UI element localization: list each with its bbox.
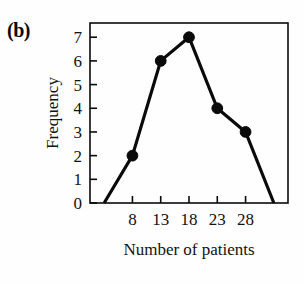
y-tick-label: 5 <box>74 76 83 95</box>
y-tick-label: 4 <box>74 99 83 118</box>
y-axis-tick-labels: 01234567 <box>74 28 83 213</box>
x-tick-label: 13 <box>152 210 169 229</box>
y-tick-label: 1 <box>74 170 83 189</box>
y-tick-label: 7 <box>74 28 83 47</box>
data-point-marker <box>184 32 195 43</box>
y-axis-ticks <box>90 37 97 203</box>
x-tick-label: 8 <box>128 210 137 229</box>
x-tick-label: 23 <box>209 210 226 229</box>
data-line-frequency <box>104 37 274 203</box>
x-tick-label: 18 <box>181 210 198 229</box>
x-axis-ticks <box>132 196 245 203</box>
y-axis-title: Frequency <box>43 77 62 149</box>
x-tick-label: 28 <box>237 210 254 229</box>
data-point-marker <box>127 150 138 161</box>
frequency-polygon-chart: 01234567 813182328 Frequency Number of p… <box>0 0 304 284</box>
y-tick-label: 0 <box>74 194 83 213</box>
data-point-markers <box>127 32 251 161</box>
figure-panel: (b) 01234567 813182328 Frequency Number … <box>0 0 304 284</box>
y-tick-label: 2 <box>74 147 83 166</box>
data-point-marker <box>212 103 223 114</box>
x-axis-title: Number of patients <box>123 240 254 259</box>
x-axis-tick-labels: 813182328 <box>128 210 254 229</box>
y-tick-label: 6 <box>74 52 83 71</box>
y-tick-label: 3 <box>74 123 83 142</box>
data-point-marker <box>155 55 166 66</box>
data-point-marker <box>240 127 251 138</box>
